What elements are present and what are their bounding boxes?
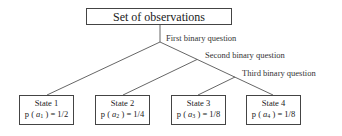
- state-name: State 1: [35, 98, 58, 109]
- branch-to-state-2: [123, 60, 197, 96]
- state-probability: p ( a3 ) = 1/8: [177, 109, 220, 122]
- state-node-3: State 3 p ( a3 ) = 1/8: [171, 95, 226, 125]
- state-node-1: State 1 p ( a1 ) = 1/2: [19, 95, 74, 125]
- state-name: State 3: [187, 98, 210, 109]
- branch-to-state-1: [47, 42, 160, 95]
- state-probability: p ( a2 ) = 1/4: [101, 109, 144, 122]
- root-node-label: Set of observations: [113, 11, 205, 23]
- root-node-box: Set of observations: [86, 8, 232, 25]
- state-probability: p ( a4 ) = 1/8: [252, 109, 295, 122]
- state-name: State 4: [262, 98, 285, 109]
- state-node-2: State 2 p ( a2 ) = 1/4: [95, 95, 150, 125]
- question-label-first: First binary question: [166, 34, 236, 43]
- state-name: State 2: [111, 98, 134, 109]
- state-node-4: State 4 p ( a4 ) = 1/8: [246, 95, 301, 125]
- question-label-second: Second binary question: [205, 51, 285, 60]
- question-label-third: Third binary question: [242, 69, 316, 78]
- state-probability: p ( a1 ) = 1/2: [25, 109, 68, 122]
- branch-to-state-3: [198, 77, 235, 95]
